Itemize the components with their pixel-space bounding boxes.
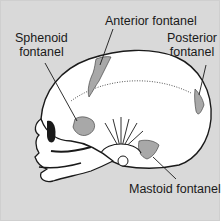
sphenoid-label-line1: Sphenoid: [15, 31, 68, 45]
posterior-label-line1: Posterior: [167, 31, 217, 45]
posterior-label-line2: fontanel: [167, 45, 217, 59]
mastoid-fontanel-label: Mastoid fontanel: [129, 182, 220, 196]
sphenoid-label-line2: fontanel: [15, 45, 68, 59]
diagram-frame: Sphenoid fontanel Anterior fontanel Post…: [0, 0, 220, 221]
anterior-fontanel-label: Anterior fontanel: [105, 14, 197, 28]
posterior-fontanel-label: Posterior fontanel: [167, 31, 217, 59]
sphenoid-fontanel-label: Sphenoid fontanel: [15, 31, 68, 59]
